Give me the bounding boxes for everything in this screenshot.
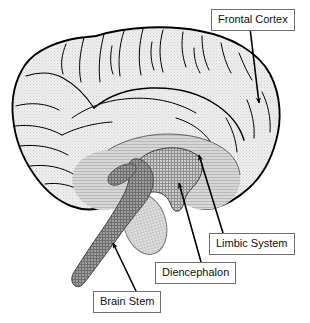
label-diencephalon: Diencephalon: [155, 262, 236, 284]
label-frontal-cortex: Frontal Cortex: [211, 9, 295, 31]
leader-brain-stem: [113, 243, 136, 291]
label-brain-stem: Brain Stem: [93, 291, 161, 313]
label-limbic-system: Limbic System: [209, 233, 295, 255]
